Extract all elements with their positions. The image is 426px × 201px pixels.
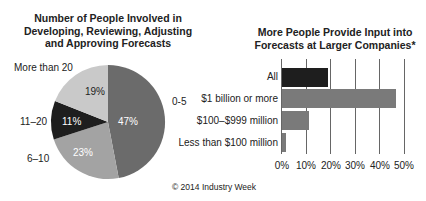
bar-category-less-than-100-million: Less than $100 million	[178, 137, 278, 148]
pie-category-11-20: 11–20	[20, 116, 47, 127]
x-tick-50: 50%	[394, 160, 414, 171]
bar-title-line-1: More People Provide Input into	[245, 26, 425, 39]
x-tick-20: 20%	[321, 160, 341, 171]
x-tick-10: 10%	[296, 160, 316, 171]
x-tick-0: 0%	[275, 160, 289, 171]
pie-label-47: 47%	[118, 116, 138, 127]
pie-category-6-10: 6–10	[27, 153, 49, 164]
bar-category-100-999-million: $100–$999 million	[197, 115, 278, 126]
pie-category-more-than-20: More than 20	[14, 62, 73, 73]
bar-1-billion-or-more	[282, 89, 396, 108]
pie-category-0-5: 0-5	[172, 96, 186, 107]
bar-category-1-billion: $1 billion or more	[201, 93, 278, 104]
pie-label-11: 11%	[62, 116, 81, 127]
bar-category-all: All	[267, 71, 278, 82]
x-tick-40: 40%	[370, 160, 390, 171]
copyright-footer: © 2014 Industry Week	[172, 182, 256, 192]
bar-all	[282, 68, 328, 87]
bar-less-than-100-million	[282, 133, 286, 152]
gridline-50	[404, 59, 405, 154]
pie-label-19: 19%	[85, 86, 105, 97]
bar-title-line-2: Forecasts at Larger Companies*	[245, 39, 425, 52]
bar-chart-title: More People Provide Input into Forecasts…	[245, 26, 425, 51]
x-tick-30: 30%	[345, 160, 365, 171]
bar-100-999-million	[282, 111, 309, 130]
pie-label-23: 23%	[73, 147, 93, 158]
